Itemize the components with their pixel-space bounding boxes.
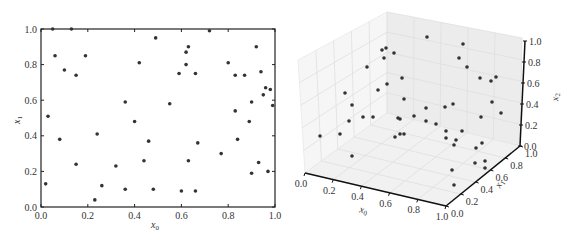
data-point-3d bbox=[473, 161, 477, 165]
data-point bbox=[233, 109, 237, 113]
x2-tick-label: 0.8 bbox=[528, 57, 541, 68]
x1-tick bbox=[446, 206, 449, 207]
data-point bbox=[243, 73, 247, 77]
data-point bbox=[74, 73, 78, 77]
data-point bbox=[250, 171, 254, 175]
scatter-2d-plot: 0.00.20.40.60.81.00.00.20.40.60.81.0 x0 … bbox=[11, 24, 281, 233]
data-point bbox=[123, 187, 127, 191]
data-point-3d bbox=[465, 65, 469, 69]
data-point-3d bbox=[412, 114, 416, 118]
data-point-3d bbox=[444, 136, 448, 140]
data-point bbox=[226, 61, 230, 65]
data-point-3d bbox=[350, 154, 354, 158]
x-tick-label: 0.4 bbox=[128, 210, 141, 221]
data-point bbox=[93, 198, 97, 202]
data-point-3d bbox=[402, 132, 406, 136]
x2-tick-label: 0.2 bbox=[525, 120, 538, 131]
data-point bbox=[247, 120, 251, 124]
x2-tick-label: 0.6 bbox=[527, 78, 540, 89]
data-point-3d bbox=[424, 119, 428, 123]
y-tick-label: 0.4 bbox=[25, 130, 38, 141]
data-point bbox=[236, 138, 240, 142]
x0-tick-label: 0.8 bbox=[408, 204, 421, 215]
data-point bbox=[46, 114, 50, 118]
data-point bbox=[250, 100, 254, 104]
data-point bbox=[137, 61, 141, 65]
data-point-3d bbox=[371, 115, 375, 119]
data-point-3d bbox=[461, 42, 465, 46]
data-point-3d bbox=[400, 76, 404, 80]
data-point bbox=[180, 189, 184, 193]
plot-area-2d bbox=[41, 29, 275, 207]
data-point-3d bbox=[478, 76, 482, 80]
data-point bbox=[114, 164, 118, 168]
x0-tick-label: 0.0 bbox=[295, 178, 308, 189]
data-point bbox=[147, 139, 151, 143]
data-point bbox=[95, 132, 99, 136]
data-point bbox=[84, 54, 88, 58]
data-point-3d bbox=[499, 111, 503, 115]
data-point-3d bbox=[402, 97, 406, 101]
data-point bbox=[264, 86, 268, 90]
data-point-3d bbox=[392, 51, 396, 55]
data-point-3d bbox=[347, 119, 351, 123]
x1-tick-label: 0.0 bbox=[451, 208, 464, 219]
data-point bbox=[51, 27, 55, 31]
data-point-3d bbox=[450, 168, 454, 172]
data-point bbox=[266, 170, 270, 174]
data-point bbox=[233, 73, 237, 77]
data-point bbox=[177, 72, 181, 76]
x0-tick-label: 0.6 bbox=[379, 198, 392, 209]
data-point bbox=[257, 161, 261, 165]
data-point bbox=[184, 50, 188, 54]
x-tick-label: 1.0 bbox=[269, 210, 282, 221]
data-point bbox=[187, 45, 191, 49]
data-point-3d bbox=[494, 75, 498, 79]
x0-axis-label-3d: x0 bbox=[357, 203, 369, 218]
data-point bbox=[194, 72, 198, 76]
y-axis-label-2d: x1 bbox=[11, 116, 24, 125]
x1-tick bbox=[490, 170, 493, 171]
data-point-3d bbox=[457, 56, 461, 60]
x1-tick bbox=[505, 158, 508, 159]
x0-tick bbox=[304, 173, 305, 176]
data-point bbox=[168, 102, 172, 106]
data-point bbox=[53, 54, 57, 58]
data-point-3d bbox=[376, 88, 380, 92]
x0-tick-label: 1.0 bbox=[436, 211, 449, 222]
data-point-3d bbox=[350, 103, 354, 107]
x-tick-label: 0.8 bbox=[222, 210, 235, 221]
data-point bbox=[70, 27, 74, 31]
data-point-3d bbox=[361, 115, 365, 119]
data-point-3d bbox=[480, 141, 484, 145]
data-point bbox=[208, 29, 212, 33]
data-point bbox=[74, 162, 78, 166]
data-point-3d bbox=[451, 102, 455, 106]
data-point-3d bbox=[483, 159, 487, 163]
data-point-3d bbox=[398, 132, 402, 136]
y-tick-label: 0.8 bbox=[25, 59, 38, 70]
data-point-3d bbox=[318, 134, 322, 138]
data-point-3d bbox=[398, 117, 402, 121]
data-point bbox=[133, 120, 137, 124]
x-tick-label: 0.6 bbox=[175, 210, 188, 221]
x1-tick bbox=[476, 182, 479, 183]
data-point bbox=[154, 36, 158, 40]
data-point bbox=[269, 88, 273, 92]
data-point bbox=[196, 141, 200, 145]
data-point bbox=[63, 68, 67, 72]
x1-tick-label: 0.4 bbox=[481, 184, 494, 195]
x1-tick-label: 0.8 bbox=[510, 160, 523, 171]
data-point-3d bbox=[380, 48, 384, 52]
x-tick-label: 0.2 bbox=[82, 210, 95, 221]
data-point-3d bbox=[452, 183, 456, 187]
x2-axis-label-3d: x2 bbox=[549, 92, 562, 102]
x2-tick-label: 0.4 bbox=[526, 99, 539, 110]
y-tick-label: 0.2 bbox=[25, 166, 38, 177]
data-point-3d bbox=[474, 146, 478, 150]
data-point-3d bbox=[490, 100, 494, 104]
y-tick-label: 0.0 bbox=[25, 202, 38, 213]
data-point bbox=[58, 138, 62, 142]
data-point-3d bbox=[479, 115, 483, 119]
data-point bbox=[152, 187, 156, 191]
